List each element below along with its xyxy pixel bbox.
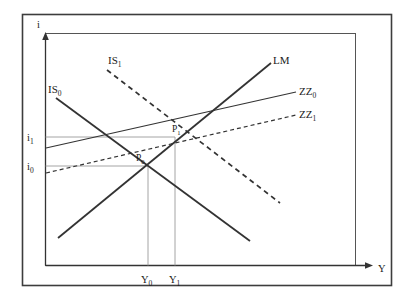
outer-frame [23, 15, 392, 286]
y-axis-label: i [37, 19, 40, 30]
diagram-canvas: i Y i1 i0 Y0 Y1 IS0 IS1 LM ZZ0 ZZ1 [0, 0, 412, 300]
x-axis-label: Y [378, 263, 386, 274]
is-lm-diagram: i Y i1 i0 Y0 Y1 IS0 IS1 LM ZZ0 ZZ1 [0, 0, 412, 300]
curve-label-lm: LM [273, 54, 290, 66]
